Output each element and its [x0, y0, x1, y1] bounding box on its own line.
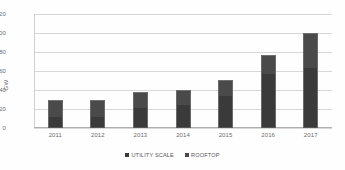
gridline: [34, 52, 332, 53]
bar-stack[interactable]: [261, 55, 276, 128]
bar-segment-rooftop[interactable]: [176, 90, 191, 105]
bar-segment-rooftop[interactable]: [90, 100, 105, 116]
x-axis-tick-label: 2014: [176, 132, 190, 138]
chart-container: GW 020406080100120 201120122013201420152…: [0, 0, 345, 170]
gridline: [34, 128, 332, 129]
bar-segment-utility-scale[interactable]: [133, 108, 148, 128]
x-axis-tick-label: 2013: [134, 132, 148, 138]
bar-stack[interactable]: [176, 90, 191, 128]
legend-swatch-rooftop: [185, 153, 189, 157]
x-axis-tick-label: 2017: [304, 132, 318, 138]
bar-segment-utility-scale[interactable]: [48, 117, 63, 128]
legend-swatch-utility-scale: [125, 153, 129, 157]
bar-segment-rooftop[interactable]: [303, 33, 318, 68]
gridline: [34, 14, 332, 15]
bar-segment-rooftop[interactable]: [48, 100, 63, 117]
y-axis-tick-label: 20: [0, 106, 6, 112]
bar-stack[interactable]: [90, 100, 105, 128]
legend-label-utility-scale: UTILITY SCALE: [131, 152, 174, 158]
plot-area: [34, 14, 332, 128]
bar-stack[interactable]: [218, 80, 233, 128]
legend-item-utility-scale[interactable]: UTILITY SCALE: [125, 152, 174, 158]
bar-segment-utility-scale[interactable]: [303, 68, 318, 128]
bar-segment-rooftop[interactable]: [133, 92, 148, 108]
bar-segment-utility-scale[interactable]: [176, 105, 191, 128]
bar-segment-rooftop[interactable]: [218, 80, 233, 96]
y-axis-tick-label: 80: [0, 49, 6, 55]
x-axis-tick-label: 2011: [49, 132, 62, 138]
gridline: [34, 33, 332, 34]
legend-label-rooftop: ROOFTOP: [191, 152, 220, 158]
bar-stack[interactable]: [133, 92, 148, 128]
bar-segment-utility-scale[interactable]: [261, 74, 276, 128]
bar-segment-utility-scale[interactable]: [90, 117, 105, 128]
x-axis-tick-label: 2016: [261, 132, 275, 138]
y-axis-tick-label: 120: [0, 11, 6, 17]
chart-legend: UTILITY SCALE ROOFTOP: [0, 152, 345, 158]
bar-stack[interactable]: [303, 33, 318, 128]
y-axis-line: [34, 14, 35, 128]
y-axis-tick-label: 40: [0, 87, 6, 93]
legend-item-rooftop[interactable]: ROOFTOP: [185, 152, 220, 158]
x-axis-tick-label: 2012: [91, 132, 105, 138]
bar-stack[interactable]: [48, 100, 63, 128]
bar-segment-utility-scale[interactable]: [218, 96, 233, 128]
y-axis-tick-label: 100: [0, 30, 6, 36]
y-axis-tick-label: 0: [0, 125, 6, 131]
gridline: [34, 71, 332, 72]
y-axis-tick-label: 60: [0, 68, 6, 74]
bar-segment-rooftop[interactable]: [261, 55, 276, 74]
x-axis-tick-label: 2015: [219, 132, 233, 138]
